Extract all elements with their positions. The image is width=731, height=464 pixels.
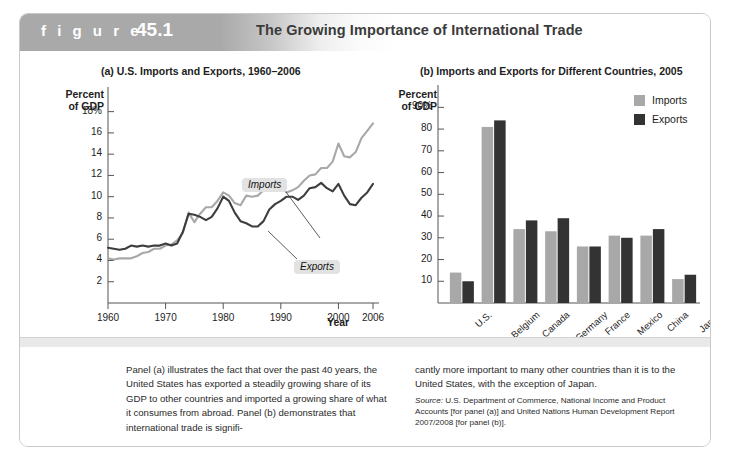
panel-a-x-tick-label: 1990 xyxy=(257,312,305,323)
panel-a-y-tick-label: 12 xyxy=(52,168,102,179)
panel-a-y-tick-label: 2 xyxy=(52,275,102,286)
panel-b-y-tick-label: 30 xyxy=(386,231,432,242)
figure-label: f i g u r e xyxy=(41,22,142,39)
panel-a-y-tick-label: 14 xyxy=(52,147,102,158)
figure-number: 45.1 xyxy=(136,19,173,41)
panel-b-y-tick-label: 70 xyxy=(386,144,432,155)
panel-b-y-tick-label: 40 xyxy=(386,209,432,220)
panel-a-y-tick-label: 6 xyxy=(52,232,102,243)
panel-a-x-tick-label: 1980 xyxy=(199,312,247,323)
bar-china-exports xyxy=(653,229,665,303)
caption-source: Source: U.S. Department of Commerce, Nat… xyxy=(415,395,693,428)
caption-right-column: cantly more important to many other coun… xyxy=(415,363,687,392)
panel-b-y-tick-label: 90% xyxy=(386,100,432,111)
panel-b-bars xyxy=(450,120,696,303)
panel-a-y-tick-label: 8 xyxy=(52,211,102,222)
bar-germany-exports xyxy=(558,218,570,303)
source-text: U.S. Department of Commerce, National In… xyxy=(415,396,675,427)
bar-japan-exports xyxy=(685,275,697,303)
figure-card: f i g u r e 45.1 The Growing Importance … xyxy=(19,13,711,447)
figure-title: The Growing Importance of International … xyxy=(256,22,583,38)
figure-caption: Panel (a) illustrates the fact that over… xyxy=(20,347,710,447)
panel-a-y-tick-label: 16 xyxy=(52,126,102,137)
panel-a-x-tick-label: 1970 xyxy=(142,312,190,323)
bar-canada-imports xyxy=(513,229,525,303)
callout-imports: Imports xyxy=(242,178,287,192)
bar-mexico-exports xyxy=(621,238,633,303)
bar-us-imports xyxy=(450,273,462,303)
figure-header: f i g u r e 45.1 The Growing Importance … xyxy=(20,14,710,51)
bar-germany-imports xyxy=(545,231,557,303)
bar-france-imports xyxy=(577,246,589,303)
panel-b-y-tick-label: 10 xyxy=(386,274,432,285)
panel-b-y-tick-label: 60 xyxy=(386,166,432,177)
bar-belgium-exports xyxy=(494,120,506,303)
panel-b-y-tick-label: 50 xyxy=(386,187,432,198)
legend-swatch-imports xyxy=(634,95,645,106)
legend-swatch-exports xyxy=(634,114,645,125)
bar-france-exports xyxy=(589,246,601,303)
panel-a-x-tick-label: 2006 xyxy=(349,312,397,323)
callout-exports: Exports xyxy=(294,260,340,274)
caption-left-column: Panel (a) illustrates the fact that over… xyxy=(126,363,391,435)
bar-china-imports xyxy=(640,236,652,303)
panel-a-x-tick-label: 1960 xyxy=(84,312,132,323)
panel-a-y-tick-label: 10 xyxy=(52,190,102,201)
charts-area: (a) U.S. Imports and Exports, 1960–2006 … xyxy=(20,51,710,337)
bar-mexico-imports xyxy=(609,236,621,303)
panel-b-y-tick-label: 20 xyxy=(386,253,432,264)
source-label: Source: xyxy=(415,396,443,405)
panel-b-plot xyxy=(20,51,711,337)
panel-a-y-tick-label: 4 xyxy=(52,253,102,264)
legend-label-exports: Exports xyxy=(652,113,688,125)
legend-label-imports: Imports xyxy=(652,94,687,106)
bar-canada-exports xyxy=(526,220,538,303)
bar-belgium-imports xyxy=(482,127,494,303)
panel-b-y-tick-label: 80 xyxy=(386,122,432,133)
panel-a-y-tick-label: 18% xyxy=(52,105,102,116)
bar-japan-imports xyxy=(672,279,684,303)
bar-us-exports xyxy=(462,281,474,303)
